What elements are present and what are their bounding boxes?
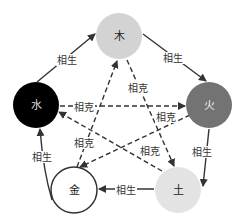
label-earth-water: 相克 <box>140 145 160 157</box>
label-wood-fire: 相生 <box>163 52 183 64</box>
label-wood-earth: 相克 <box>128 82 148 94</box>
node-water: 水 <box>13 82 59 128</box>
overcoming-labels: 相克 相克 相克 相克 相克 <box>73 82 177 158</box>
label-earth-metal: 相生 <box>116 184 136 196</box>
label-water-fire: 相克 <box>74 101 94 113</box>
node-fire: 火 <box>186 82 232 128</box>
five-elements-diagram: 木 火 土 金 水 相生 相生 相生 相生 相生 <box>0 0 238 223</box>
water-label: 水 <box>31 99 42 112</box>
node-metal: 金 <box>51 167 97 213</box>
label-fire-earth: 相生 <box>192 146 212 158</box>
edge-metal-to-water <box>40 129 52 200</box>
label-water-wood: 相生 <box>57 54 77 66</box>
fire-label: 火 <box>204 99 215 112</box>
diagram-canvas: 木 火 土 金 水 相生 相生 相生 相生 相生 <box>0 0 238 223</box>
node-earth: 土 <box>155 167 201 213</box>
label-fire-metal: 相克 <box>156 111 176 123</box>
wood-label: 木 <box>114 30 125 43</box>
label-metal-water: 相生 <box>32 151 52 163</box>
edge-metal-to-wood <box>77 61 117 167</box>
earth-label: 土 <box>173 184 184 197</box>
node-wood: 木 <box>96 13 142 59</box>
label-metal-wood: 相克 <box>74 137 94 149</box>
metal-label: 金 <box>69 183 80 197</box>
